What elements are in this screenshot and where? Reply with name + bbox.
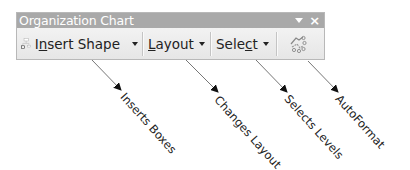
arrow-inserts-boxes — [92, 60, 121, 90]
arrow-autoformat — [308, 61, 338, 92]
annotation-arrows — [0, 0, 410, 170]
arrow-changes-layout — [186, 60, 218, 92]
arrow-selects-levels — [256, 60, 287, 92]
